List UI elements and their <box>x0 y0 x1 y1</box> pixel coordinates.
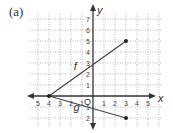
x-axis-arrow-left-icon <box>27 93 34 99</box>
endpoint-dot <box>124 116 128 120</box>
y-tick-label: 2 <box>86 115 90 122</box>
x-tick-label: 3 <box>124 100 128 107</box>
x-tick-label: 5 <box>146 100 150 107</box>
y-tick-label: 2 <box>86 71 90 78</box>
x-tick-label: 1 <box>102 100 106 107</box>
y-tick-label: 4 <box>86 49 90 56</box>
coordinate-plot: xyO5432112345211234567fg <box>0 0 173 133</box>
x-tick-label: 3 <box>58 100 62 107</box>
y-tick-label: 7 <box>86 16 90 23</box>
x-tick-label: 4 <box>47 100 51 107</box>
x-tick-label: 5 <box>36 100 40 107</box>
y-tick-label: 5 <box>86 38 90 45</box>
endpoint-dot <box>124 39 128 43</box>
series-label-g: g <box>73 101 80 113</box>
y-axis-arrow-up-icon <box>90 4 96 11</box>
x-axis-arrow-right-icon <box>149 93 156 99</box>
y-tick-label: 6 <box>86 27 90 34</box>
endpoint-dot <box>47 94 51 98</box>
x-tick-label: 2 <box>113 100 117 107</box>
y-axis-arrow-down-icon <box>90 123 96 130</box>
x-tick-label: 4 <box>135 100 139 107</box>
series-label-f: f <box>74 60 78 72</box>
y-tick-label: 3 <box>86 60 90 67</box>
y-axis-label: y <box>96 4 104 16</box>
x-axis-label: x <box>157 92 164 104</box>
x-tick-label: 2 <box>69 100 73 107</box>
y-tick-label: 1 <box>86 82 90 89</box>
